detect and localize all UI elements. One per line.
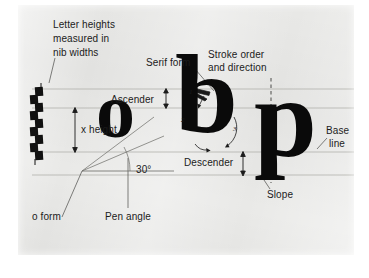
label-stroke-order-line1: Stroke order [208, 49, 264, 61]
label-descender: Descender [184, 157, 233, 169]
label-ascender: Ascender [111, 94, 154, 106]
calligraphy-diagram: o b p 1 2 3 Letter heights measured in n… [18, 5, 354, 255]
letter-o: o [96, 72, 135, 150]
label-serif-form: Serif form [146, 57, 190, 69]
label-base-line-2: line [329, 138, 345, 150]
label-stroke-order-line2: and direction [208, 62, 267, 74]
label-letter-heights-line1: Letter heights [53, 19, 115, 31]
label-letter-heights-line3: nib widths [53, 47, 98, 59]
label-o-form: o form [32, 211, 61, 223]
label-base-line-1: Base [326, 125, 349, 137]
label-pen-angle-value: 30° [136, 164, 151, 176]
stroke-number-3: 3 [233, 125, 237, 133]
stroke-number-2: 2 [181, 116, 185, 124]
label-letter-heights-line2: measured in [53, 33, 109, 45]
label-pen-angle: Pen angle [105, 211, 151, 223]
label-x-height: x height [81, 124, 117, 136]
label-slope: Slope [267, 189, 293, 201]
letter-p: p [254, 61, 317, 174]
stroke-number-1: 1 [189, 88, 193, 96]
